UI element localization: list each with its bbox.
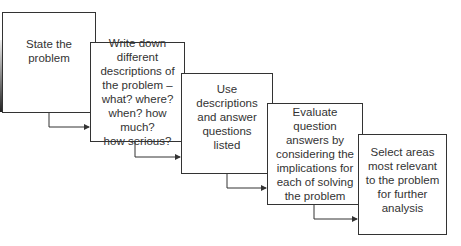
step-3-box: Use descriptions and answer questions li… bbox=[181, 73, 273, 174]
arrow-1-2 bbox=[49, 112, 89, 127]
arrow-3-4 bbox=[227, 173, 266, 188]
step-4-box: Evaluate question answers by considering… bbox=[267, 103, 363, 205]
step-2-label: Write down different descriptions of the… bbox=[95, 36, 180, 148]
step-1-label: State the problem bbox=[26, 37, 72, 65]
step-1-box: State the problem bbox=[2, 12, 96, 113]
step-5-box: Select areas most relevant to the proble… bbox=[358, 134, 447, 235]
step-3-label: Use descriptions and answer questions li… bbox=[196, 82, 257, 152]
step-5-label: Select areas most relevant to the proble… bbox=[366, 145, 440, 215]
arrow-4-5 bbox=[314, 204, 357, 219]
step-4-label: Evaluate question answers by considering… bbox=[276, 105, 354, 203]
step-2-box: Write down different descriptions of the… bbox=[90, 42, 185, 142]
